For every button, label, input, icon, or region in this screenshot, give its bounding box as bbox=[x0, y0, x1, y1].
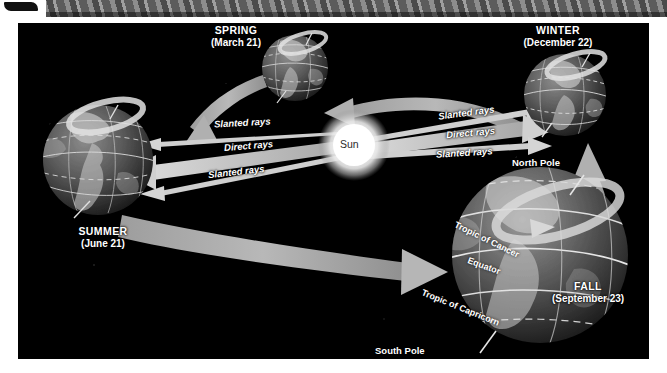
orbit-arrow-spring-to-summer bbox=[184, 75, 267, 145]
diagram-stage: SPRING (March 21) WINTER (December 22) S… bbox=[18, 23, 649, 359]
season-name-fall: FALL bbox=[574, 280, 602, 292]
sun-label: Sun bbox=[340, 138, 359, 150]
globe-winter bbox=[523, 46, 609, 137]
label-south-pole: South Pole bbox=[375, 345, 425, 356]
globe-summer bbox=[38, 93, 155, 218]
season-date-spring: (March 21) bbox=[211, 37, 261, 48]
season-label-summer: SUMMER (June 21) bbox=[53, 226, 153, 250]
season-date-winter: (December 22) bbox=[524, 37, 593, 48]
season-name-summer: SUMMER bbox=[78, 225, 127, 237]
season-label-winter: WINTER (December 22) bbox=[498, 25, 618, 49]
season-date-summer: (June 21) bbox=[81, 238, 125, 249]
season-date-fall: (September 23) bbox=[552, 293, 624, 304]
orbit-arrow-summer-to-fall bbox=[118, 215, 448, 295]
label-north-pole: North Pole bbox=[512, 157, 560, 168]
south-pole-leader bbox=[480, 331, 496, 353]
decorative-banner bbox=[0, 0, 667, 17]
season-label-spring: SPRING (March 21) bbox=[186, 25, 286, 49]
season-name-winter: WINTER bbox=[536, 24, 580, 36]
left-margin bbox=[0, 23, 18, 373]
banner-corner-tab bbox=[0, 0, 46, 17]
seasons-diagram-page: SPRING (March 21) WINTER (December 22) S… bbox=[0, 0, 667, 373]
bottom-margin bbox=[0, 359, 667, 373]
banner-corner-mark bbox=[4, 2, 38, 11]
season-label-fall: FALL (September 23) bbox=[528, 281, 648, 305]
diagram-artwork bbox=[18, 23, 649, 359]
season-name-spring: SPRING bbox=[215, 24, 258, 36]
right-margin bbox=[649, 23, 667, 373]
